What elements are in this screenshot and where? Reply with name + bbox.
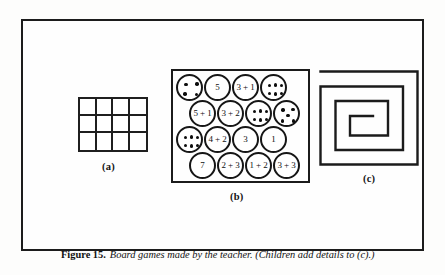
board-circle-label: 1 — [271, 135, 275, 144]
dice-dots-icon — [275, 102, 298, 125]
board-circle-label: 3 + 3 — [277, 161, 295, 170]
grid-cell — [97, 133, 114, 150]
board-circle-label: 1 + 2 — [249, 161, 267, 170]
board-circle-label: 5 + 1 — [193, 109, 211, 118]
circle-board-row: 5 + 13 + 2 — [189, 100, 300, 128]
board-circle-number[interactable]: 1 — [260, 126, 287, 153]
grid-cell — [130, 99, 147, 116]
dice-dots-icon — [247, 102, 270, 125]
board-circle-number[interactable]: 3 + 1 — [232, 74, 259, 101]
board-circle-number[interactable]: 4 + 2 — [204, 126, 231, 153]
figure-page: (a) 53 + 15 + 13 + 24 + 23172 + 31 + 23 … — [0, 0, 445, 275]
board-circle-label: 3 + 1 — [236, 83, 254, 92]
grid-cell — [80, 99, 97, 116]
panel-c-spiral-board — [318, 69, 420, 167]
board-circle-number[interactable]: 2 + 3 — [217, 152, 244, 179]
figure-caption-text: Board games made by the teacher. (Childr… — [110, 249, 375, 260]
board-circle-number[interactable]: 5 — [204, 74, 231, 101]
board-circle-number[interactable]: 5 + 1 — [189, 100, 216, 127]
grid-cell — [113, 116, 130, 133]
dice-dots-icon — [178, 76, 201, 99]
panel-b-label: (b) — [230, 191, 243, 202]
board-circle-dots[interactable] — [176, 126, 203, 153]
grid-cell — [80, 116, 97, 133]
rectangular-spiral-icon — [318, 69, 420, 167]
board-circle-label: 3 — [243, 135, 247, 144]
board-circle-label: 7 — [200, 161, 204, 170]
grid-cell — [80, 133, 97, 150]
grid-cell — [130, 116, 147, 133]
grid-cell — [97, 116, 114, 133]
circle-board-row: 4 + 231 — [176, 126, 287, 154]
board-circle-number[interactable]: 3 — [232, 126, 259, 153]
board-circle-dots[interactable] — [245, 100, 272, 127]
board-circle-number[interactable]: 7 — [189, 152, 216, 179]
panel-c-label: (c) — [363, 173, 375, 184]
dice-dots-icon — [262, 76, 285, 99]
board-circle-dots[interactable] — [273, 100, 300, 127]
board-circle-number[interactable]: 3 + 2 — [217, 100, 244, 127]
figure-caption: Figure 15.Board games made by the teache… — [61, 249, 436, 260]
figure-frame: (a) 53 + 15 + 13 + 24 + 23172 + 31 + 23 … — [21, 19, 424, 251]
board-circle-label: 4 + 2 — [208, 135, 226, 144]
board-circle-dots[interactable] — [176, 74, 203, 101]
grid-cell — [113, 99, 130, 116]
circle-board-row: 53 + 1 — [176, 74, 287, 102]
board-circle-number[interactable]: 1 + 2 — [245, 152, 272, 179]
grid-cell — [130, 133, 147, 150]
panel-b-circle-board: 53 + 15 + 13 + 24 + 23172 + 31 + 23 + 3 — [171, 69, 310, 183]
grid-cell — [97, 99, 114, 116]
circle-board-row: 72 + 31 + 23 + 3 — [189, 152, 300, 180]
board-circle-dots[interactable] — [260, 74, 287, 101]
board-circle-label: 5 — [215, 83, 219, 92]
figure-caption-label: Figure 15. — [61, 249, 106, 260]
board-circle-number[interactable]: 3 + 3 — [273, 152, 300, 179]
grid-cell — [113, 133, 130, 150]
dice-dots-icon — [178, 128, 201, 151]
board-circle-label: 2 + 3 — [221, 161, 239, 170]
panel-a-label: (a) — [102, 161, 115, 172]
panel-a-grid-board — [78, 97, 148, 152]
board-circle-label: 3 + 2 — [221, 109, 239, 118]
grid-board — [78, 97, 148, 152]
